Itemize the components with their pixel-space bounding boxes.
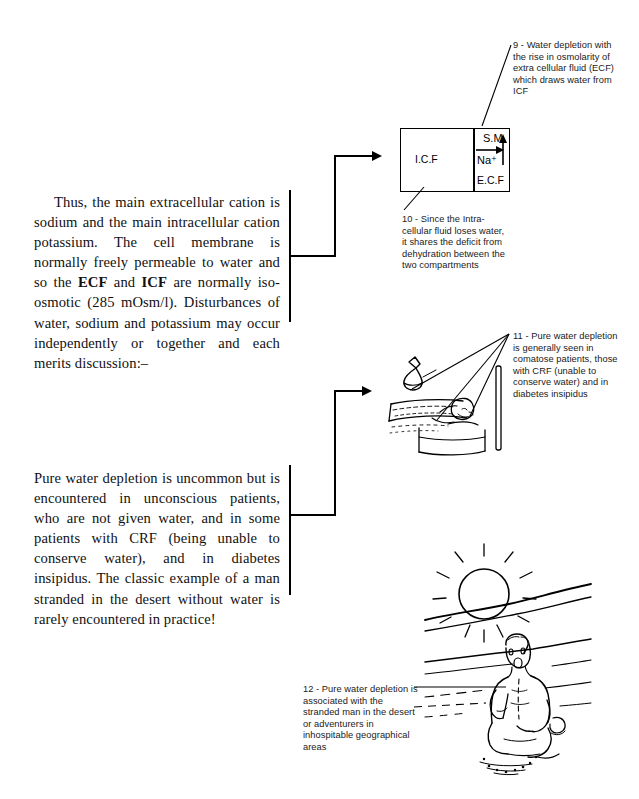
- icf-label: I.C.F: [415, 153, 438, 165]
- bracket-2-arrow-shaft: [334, 390, 364, 392]
- caption-9-leader-line: [482, 45, 511, 126]
- bracket-2-vertical-rule: [289, 465, 291, 595]
- caption-12-leader-lines: [414, 687, 506, 707]
- body-paragraph-2: Pure water depletion is uncommon but is …: [34, 468, 280, 629]
- cell-compartment-diagram: I.C.F S.M. Na⁺ E.C.F: [400, 128, 510, 192]
- bracket-1-horizontal-stub: [289, 255, 336, 257]
- stranded-man-in-desert-illustration: [425, 544, 591, 775]
- caption-11-leader-lines: [412, 334, 509, 420]
- bracket-1-arrow-shaft: [334, 155, 374, 157]
- na-label: Na⁺: [477, 154, 497, 167]
- page-canvas: Thus, the main extracellular cation is s…: [0, 0, 639, 799]
- bracket-2-horizontal-stub: [289, 514, 336, 516]
- compartment-divider: [473, 129, 475, 191]
- bracket-1-riser: [334, 155, 336, 257]
- body-paragraph-1: Thus, the main extracellular cation is s…: [34, 192, 280, 373]
- paragraph-1-bold-ecf: ECF: [78, 274, 108, 290]
- ecf-label: E.C.F: [477, 174, 504, 186]
- bracket-2-arrow-head: [362, 386, 372, 396]
- caption-9: 9 - Water depletion with the rise in osm…: [513, 40, 617, 98]
- caption-12: 12 - Pure water depletion is associated …: [303, 684, 421, 754]
- paragraph-1-bold-icf: ICF: [142, 274, 167, 290]
- bracket-2-riser: [334, 390, 336, 516]
- sm-label: S.M.: [483, 132, 506, 144]
- bracket-1-arrow-head: [372, 151, 382, 161]
- caption-10: 10 - Since the Intra-cellular fluid lose…: [402, 214, 506, 272]
- caption-11: 11 - Pure water depletion is generally s…: [513, 331, 625, 401]
- unconscious-patient-in-bed-illustration: [389, 357, 501, 455]
- paragraph-1-segment-b: and: [108, 274, 142, 290]
